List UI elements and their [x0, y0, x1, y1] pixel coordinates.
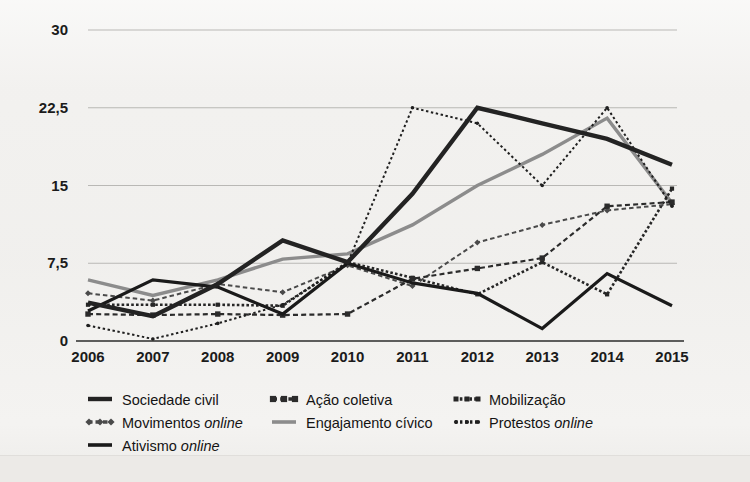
data-point-marker — [215, 311, 220, 316]
data-point-marker — [281, 303, 285, 307]
data-point-marker — [540, 184, 544, 188]
line-chart: 07,51522,5302006200720082009201020112012… — [0, 0, 750, 482]
x-tick-label: 2007 — [136, 348, 169, 365]
legend-swatch-marker — [476, 420, 480, 424]
legend-label: Ação coletiva — [306, 392, 393, 408]
legend-swatch-marker — [107, 418, 114, 425]
data-point-marker — [476, 122, 480, 126]
data-point-marker — [605, 106, 609, 110]
series-layer — [85, 106, 675, 341]
x-tick-label: 2008 — [201, 348, 234, 365]
legend-swatch-marker — [96, 418, 103, 425]
legend-swatch-marker — [476, 397, 481, 402]
legend-label: Mobilização — [489, 392, 566, 408]
series-line — [88, 108, 672, 316]
y-tick-label: 30 — [51, 21, 68, 38]
x-axis-ticks: 2006200720082009201020112012201320142015 — [71, 348, 688, 365]
plot-area: 07,51522,5302006200720082009201020112012… — [0, 0, 750, 482]
series-engajamento-c-vico — [88, 118, 672, 295]
x-tick-label: 2011 — [396, 348, 429, 365]
series-line — [88, 189, 672, 306]
legend-swatch-marker — [465, 420, 469, 424]
data-point-marker — [345, 311, 350, 316]
chart-figure: 07,51522,5302006200720082009201020112012… — [0, 0, 750, 482]
legend-swatch-marker — [270, 396, 276, 402]
data-point-marker — [86, 324, 90, 328]
y-tick-label: 7,5 — [47, 254, 68, 271]
legend-label: Protestos online — [489, 415, 593, 431]
legend-label: Movimentos online — [122, 415, 243, 431]
legend-label: Ativismo online — [122, 438, 220, 454]
legend-swatch-marker — [281, 396, 287, 402]
series-a-o-coletiva — [85, 199, 674, 317]
data-point-marker — [540, 255, 545, 260]
legend-label: Engajamento cívico — [306, 415, 433, 431]
data-point-marker — [604, 204, 609, 209]
legend-item-a-o-coletiva[interactable]: Ação coletiva — [270, 392, 393, 408]
data-point-marker — [670, 204, 674, 208]
series-line — [88, 204, 672, 300]
y-tick-label: 0 — [60, 332, 68, 349]
data-point-marker — [411, 106, 415, 110]
x-tick-label: 2012 — [461, 348, 494, 365]
data-point-marker — [280, 289, 286, 295]
legend: Sociedade civilAção coletivaMobilizaçãoM… — [85, 392, 593, 454]
legend-item-engajamento-c-vico[interactable]: Engajamento cívico — [272, 415, 433, 431]
x-tick-label: 2015 — [655, 348, 688, 365]
series-line — [88, 202, 672, 315]
legend-swatch-marker — [454, 420, 458, 424]
data-point-marker — [216, 322, 220, 326]
legend-item-ativismo[interactable]: Ativismo online — [88, 438, 220, 454]
data-point-marker — [670, 187, 674, 191]
y-axis-ticks: 07,51522,530 — [39, 21, 68, 349]
data-point-marker — [85, 311, 90, 316]
legend-swatch-marker — [85, 418, 92, 425]
data-point-marker — [605, 292, 609, 296]
series-line — [88, 118, 672, 295]
legend-swatch-marker — [465, 397, 470, 402]
x-tick-label: 2014 — [590, 348, 624, 365]
legend-item-protestos[interactable]: Protestos online — [454, 415, 593, 431]
x-tick-label: 2006 — [71, 348, 104, 365]
series-movimentos-online — [85, 201, 675, 303]
x-tick-label: 2009 — [266, 348, 299, 365]
data-point-marker — [410, 276, 415, 281]
data-point-marker — [85, 290, 91, 296]
data-point-marker — [151, 337, 155, 341]
legend-item-movimentos[interactable]: Movimentos online — [85, 415, 243, 431]
x-tick-label: 2013 — [526, 348, 559, 365]
legend-label: Sociedade civil — [122, 392, 219, 408]
data-point-marker — [474, 240, 480, 246]
x-tick-label: 2010 — [331, 348, 364, 365]
series-sociedade-civil — [88, 108, 672, 316]
data-point-marker — [216, 303, 220, 307]
data-point-marker — [475, 266, 480, 271]
y-tick-label: 15 — [51, 177, 68, 194]
legend-swatch-marker — [292, 396, 298, 402]
legend-swatch-marker — [454, 397, 459, 402]
legend-item-mobiliza-o[interactable]: Mobilização — [454, 392, 566, 408]
data-point-marker — [539, 222, 545, 228]
legend-item-sociedade-civil[interactable]: Sociedade civil — [88, 392, 219, 408]
y-tick-label: 22,5 — [39, 99, 68, 116]
